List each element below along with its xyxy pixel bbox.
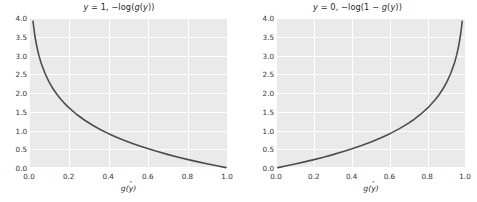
x-tick-label-0.2: 0.2 [301,172,327,181]
y-tick-label-2.5: 2.5 [5,70,27,79]
y-tick-label-0.5: 0.5 [5,145,27,154]
y-axis-ticks-left: 0.00.51.01.52.02.53.03.54.0 [1,18,27,168]
x-tick-label-0.6: 0.6 [135,172,161,181]
panel-title-right-eq: = 0, −log(1 − [318,2,382,12]
y-tick-label-4.0: 4.0 [5,14,27,23]
x-axis-label-left: g(y) [29,184,228,193]
figure-canvas: y = 1, −log(g(y)) 0.00.51.01.52.02.53.03… [0,0,477,202]
y-tick-label-2.5: 2.5 [252,70,274,79]
curve-left [29,18,228,168]
y-tick-label-2.0: 2.0 [252,89,274,98]
y-tick-label-1.5: 1.5 [5,107,27,116]
x-tick-label-1.0: 1.0 [214,172,240,181]
y-tick-label-3.0: 3.0 [5,51,27,60]
y-tick-label-1.5: 1.5 [252,107,274,116]
y-tick-label-2.0: 2.0 [5,89,27,98]
x-tick-label-0.0: 0.0 [263,172,289,181]
y-tick-label-3.5: 3.5 [5,32,27,41]
x-tick-label-0.4: 0.4 [95,172,121,181]
panel-title-right: y = 0, −log(1 − g(y)) [238,2,477,12]
plot-area-left [29,18,228,168]
x-tick-label-0.6: 0.6 [376,172,402,181]
y-tick-label-0.5: 0.5 [252,145,274,154]
x-tick-label-1.0: 1.0 [452,172,477,181]
y-tick-label-1.0: 1.0 [252,126,274,135]
chart-panel-right: y = 0, −log(1 − g(y)) 0.00.51.01.52.02.5… [238,0,477,202]
x-tick-label-0.0: 0.0 [16,172,42,181]
x-tick-label-0.8: 0.8 [174,172,200,181]
x-tick-label-0.8: 0.8 [414,172,440,181]
curve-right [276,18,466,168]
x-tick-label-0.4: 0.4 [339,172,365,181]
y-axis-ticks-right: 0.00.51.01.52.02.53.03.54.0 [248,18,274,168]
x-tick-label-0.2: 0.2 [56,172,82,181]
y-tick-label-3.0: 3.0 [252,51,274,60]
panel-title-left: y = 1, −log(g(y)) [0,2,238,12]
panel-title-right-suffix: )) [395,2,402,12]
panel-title-left-suffix: )) [148,2,155,12]
x-axis-label-right: g(y) [276,184,466,193]
y-tick-label-4.0: 4.0 [252,14,274,23]
chart-panel-left: y = 1, −log(g(y)) 0.00.51.01.52.02.53.03… [0,0,238,202]
y-tick-label-1.0: 1.0 [5,126,27,135]
plot-area-right [276,18,466,168]
panel-title-left-eq: = 1, −log( [88,2,134,12]
y-tick-label-3.5: 3.5 [252,32,274,41]
